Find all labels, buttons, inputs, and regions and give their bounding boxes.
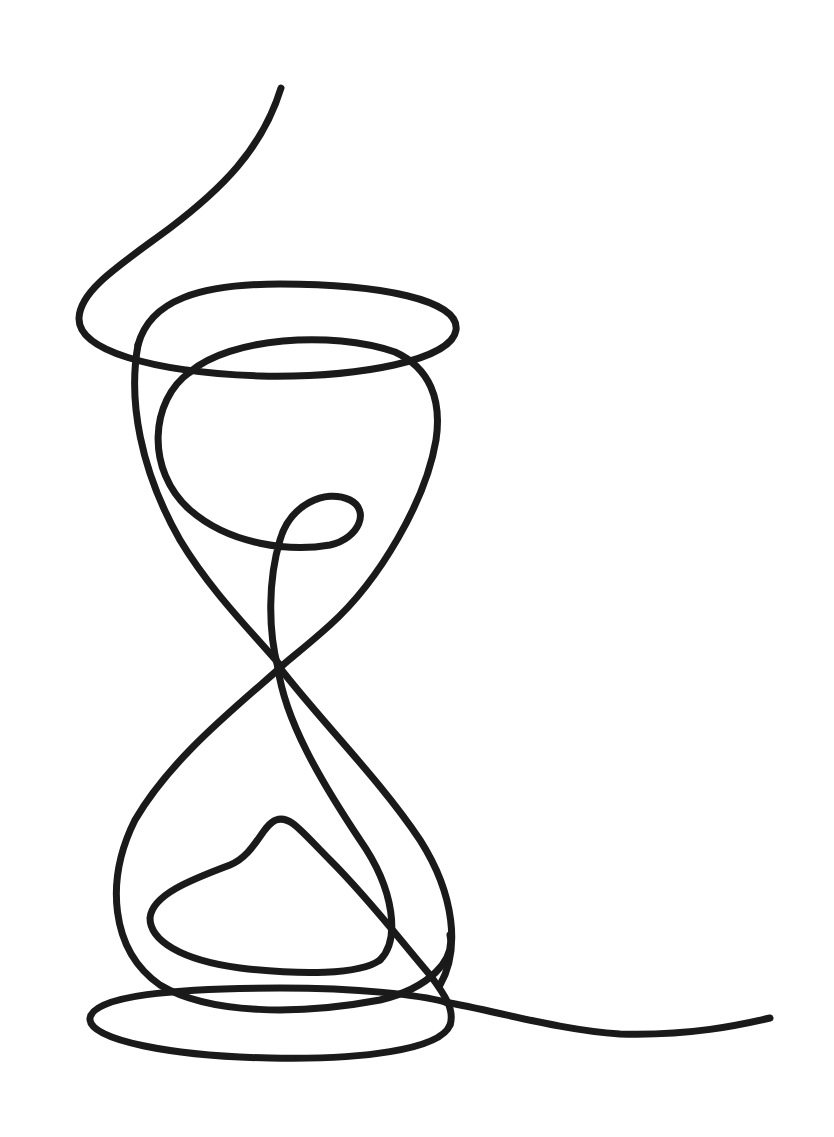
lower-bulb-right-wall [280,668,452,985]
hourglass-illustration [0,0,834,1137]
lower-bulb-left-wall [116,668,450,1010]
bottom-tail-line [445,1002,770,1034]
lower-bulb-inner-line [278,668,392,960]
top-tail-line [79,88,456,376]
hourglass-line-drawing [0,0,834,1137]
upper-bulb-left-wall [135,345,280,665]
